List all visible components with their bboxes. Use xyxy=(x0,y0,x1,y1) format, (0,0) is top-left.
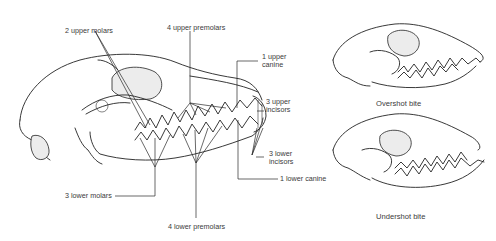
label-lower-premolars: 4 lower premolars xyxy=(168,223,225,231)
label-upper-incisors-line2: incisors xyxy=(266,106,290,114)
caption-undershot-bite: Undershot bite xyxy=(376,212,425,221)
label-upper-premolars: 4 upper premolars xyxy=(167,24,225,32)
label-lower-incisors: 3 lower incisors xyxy=(269,150,293,166)
label-lower-canine: 1 lower canine xyxy=(280,175,326,183)
label-upper-molars: 2 upper molars xyxy=(65,27,113,35)
undershot-skull-drawing xyxy=(333,114,484,188)
caption-overshot-bite: Overshot bite xyxy=(376,99,421,108)
overshot-skull-drawing xyxy=(333,24,483,88)
main-skull-drawing xyxy=(20,54,267,164)
leader-lines xyxy=(95,31,278,218)
label-upper-incisors: 3 upper incisors xyxy=(266,98,290,114)
label-upper-canine-line2: canine xyxy=(262,61,286,69)
label-upper-canine: 1 upper canine xyxy=(262,53,286,69)
label-lower-incisors-line2: incisors xyxy=(269,158,293,166)
skull-diagram-canvas xyxy=(0,0,496,241)
label-lower-molars: 3 lower molars xyxy=(65,192,112,200)
